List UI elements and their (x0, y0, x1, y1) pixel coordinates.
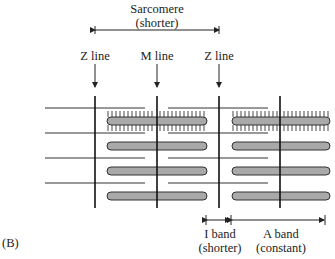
i-band-label: I band (shorter) (196, 227, 244, 255)
z-m-lines (95, 96, 280, 208)
i-band-title: I band (196, 227, 244, 241)
a-band-subtitle: (constant) (252, 241, 310, 255)
m-line-label: M line (135, 49, 179, 63)
sarcomere-diagram (0, 0, 335, 259)
z-line-left-label: Z line (75, 49, 115, 63)
a-band-label: A band (constant) (252, 227, 310, 255)
a-band-title: A band (252, 227, 310, 241)
sarcomere-title: Sarcomere (120, 2, 194, 16)
i-band-subtitle: (shorter) (196, 241, 244, 255)
sarcomere-subtitle: (shorter) (120, 16, 194, 30)
sarcomere-label: Sarcomere (shorter) (120, 2, 194, 30)
band-arrows (206, 215, 325, 225)
z-line-right-label: Z line (199, 49, 239, 63)
pointer-arrows (95, 64, 219, 87)
panel-label: (B) (2, 236, 19, 250)
